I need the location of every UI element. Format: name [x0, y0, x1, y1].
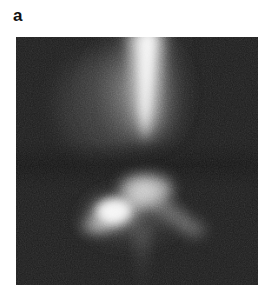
panel-label-a: a: [13, 6, 22, 26]
film-grain-overlay-light: [16, 37, 258, 285]
figure-panel: a: [0, 0, 270, 294]
micrograph-canvas: [16, 37, 258, 285]
micrograph-image: [16, 37, 258, 285]
